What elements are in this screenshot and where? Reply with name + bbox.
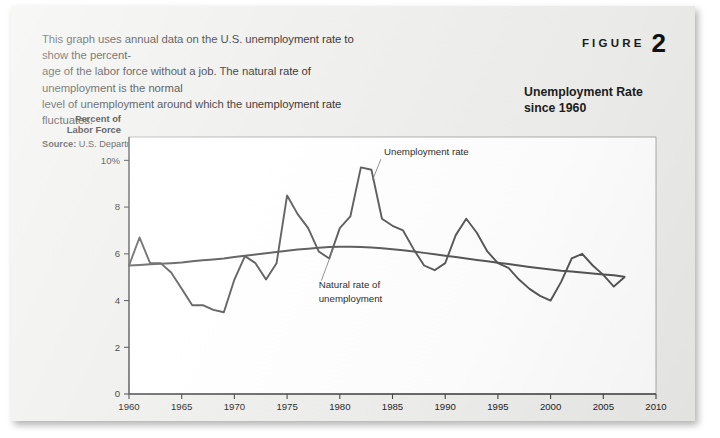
natural-rate-label-line2: unemployment — [319, 293, 383, 304]
x-tick-label-1995: 1995 — [487, 401, 508, 412]
y-axis-tick-labels: 0246810% — [101, 155, 121, 400]
natural-rate-label-line1: Natural rate of — [319, 279, 381, 290]
y-tick-label-8: 8 — [115, 201, 120, 212]
figure-page: This graph uses annual data on the U.S. … — [11, 6, 695, 421]
x-axis-ticks — [129, 394, 656, 399]
chart-container: 1960196519701975198019851990199520002005… — [11, 6, 695, 421]
x-tick-label-2010: 2010 — [645, 401, 666, 412]
x-tick-label-1960: 1960 — [118, 401, 139, 412]
plot-background — [129, 137, 656, 394]
x-tick-label-1990: 1990 — [435, 401, 456, 412]
x-tick-label-1985: 1985 — [382, 401, 403, 412]
x-tick-label-1980: 1980 — [329, 401, 350, 412]
y-tick-label-0: 0 — [115, 388, 120, 399]
unemployment-rate-label: Unemployment rate — [384, 146, 469, 157]
x-tick-label-1970: 1970 — [224, 401, 245, 412]
y-tick-label-4: 4 — [115, 295, 121, 306]
x-tick-label-1975: 1975 — [276, 401, 297, 412]
y-tick-label-6: 6 — [115, 248, 120, 259]
y-tick-label-10: 10% — [101, 155, 121, 166]
x-tick-label-2000: 2000 — [540, 401, 561, 412]
x-axis-tick-labels: 1960196519701975198019851990199520002005… — [118, 401, 666, 412]
y-axis-ticks — [124, 160, 129, 394]
y-tick-label-2: 2 — [115, 342, 120, 353]
y-axis-title-line-1: Percent of — [75, 113, 122, 124]
x-tick-label-1965: 1965 — [171, 401, 192, 412]
unemployment-line-chart: 1960196519701975198019851990199520002005… — [11, 6, 695, 421]
x-tick-label-2005: 2005 — [593, 401, 614, 412]
y-axis-title-line-2: Labor Force — [67, 124, 121, 135]
